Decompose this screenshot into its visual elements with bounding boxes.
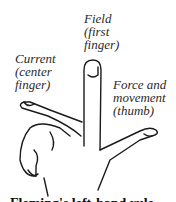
figure-caption: Fleming's left-hand rule xyxy=(10,196,154,202)
thumb xyxy=(98,128,157,190)
center-finger xyxy=(20,102,82,136)
field-label: Field (first finger) xyxy=(84,12,119,51)
current-label: Current (center finger) xyxy=(15,52,56,91)
force-label: Force and movement (thumb) xyxy=(113,78,166,117)
folded-fingers xyxy=(20,124,70,176)
